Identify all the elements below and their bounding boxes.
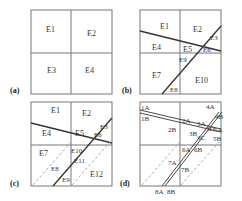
node-label: 3A — [197, 120, 206, 128]
panel-b-tag: (b) — [122, 86, 132, 95]
element-label: E3 — [47, 66, 56, 75]
element-label: E1 — [46, 25, 55, 34]
element-label: E3 — [210, 34, 218, 42]
node-label: 6B — [194, 146, 203, 154]
node-label: 7B — [181, 166, 190, 174]
element-label: E2 — [193, 25, 202, 34]
element-label: E7 — [39, 149, 48, 158]
node-label: 5A — [214, 126, 223, 134]
element-label: E9 — [179, 56, 187, 64]
mesh-refinement-figure: E1 E2 E3 E4 (a) E1 E2 E3 E4 E5 E6 E7 E8 … — [0, 0, 242, 201]
element-label: E5 — [75, 129, 84, 138]
element-label: E11 — [74, 157, 86, 165]
node-label: 8B — [167, 188, 176, 196]
element-label: E6 — [203, 46, 211, 54]
element-label: E1 — [160, 22, 169, 31]
element-label: E4 — [42, 129, 51, 138]
element-label: E8 — [170, 86, 178, 94]
node-label: 4A — [206, 103, 215, 111]
element-label: E4 — [85, 66, 94, 75]
panel-a-tag: (a) — [10, 86, 20, 95]
element-label: E10 — [195, 76, 208, 85]
node-label: 7A — [168, 159, 177, 167]
element-label: E4 — [152, 43, 161, 52]
node-label: 5B — [213, 135, 222, 143]
element-label: E3 — [100, 123, 108, 131]
element-label: E5 — [183, 45, 192, 54]
node-label: 6A — [182, 146, 191, 154]
panel-c-tag: (c) — [10, 179, 19, 188]
element-label: E2 — [82, 109, 91, 118]
element-label: E2 — [87, 29, 96, 38]
element-label: E12 — [90, 170, 103, 179]
node-label: 4B — [215, 113, 224, 121]
panel-c: E1 E2 E3 E4 E5 E6 E7 E8 E9 E10 E11 E12 — [31, 102, 112, 186]
panel-a: E1 E2 E3 E4 — [31, 10, 112, 94]
element-label: E1 — [51, 106, 60, 115]
element-label: E8 — [51, 165, 59, 173]
node-label: 1A — [141, 104, 150, 112]
node-label: 2A — [182, 117, 191, 125]
element-label: E10 — [71, 147, 83, 155]
node-label: 1B — [141, 115, 150, 123]
panel-d: 1A 1B 2A 2B 3A 3B 3C 3D 4A 4B 5A 5B 6A 6… — [140, 102, 224, 196]
panel-b: E1 E2 E3 E4 E5 E6 E7 E8 E9 E10 — [140, 10, 221, 94]
node-label: 3C — [197, 134, 206, 142]
element-label: E9 — [62, 176, 70, 184]
element-label: E6 — [94, 131, 102, 139]
element-label: E7 — [152, 71, 161, 80]
panel-d-tag: (d) — [120, 179, 130, 188]
node-label: 2B — [168, 126, 177, 134]
node-label: 8A — [155, 188, 164, 196]
